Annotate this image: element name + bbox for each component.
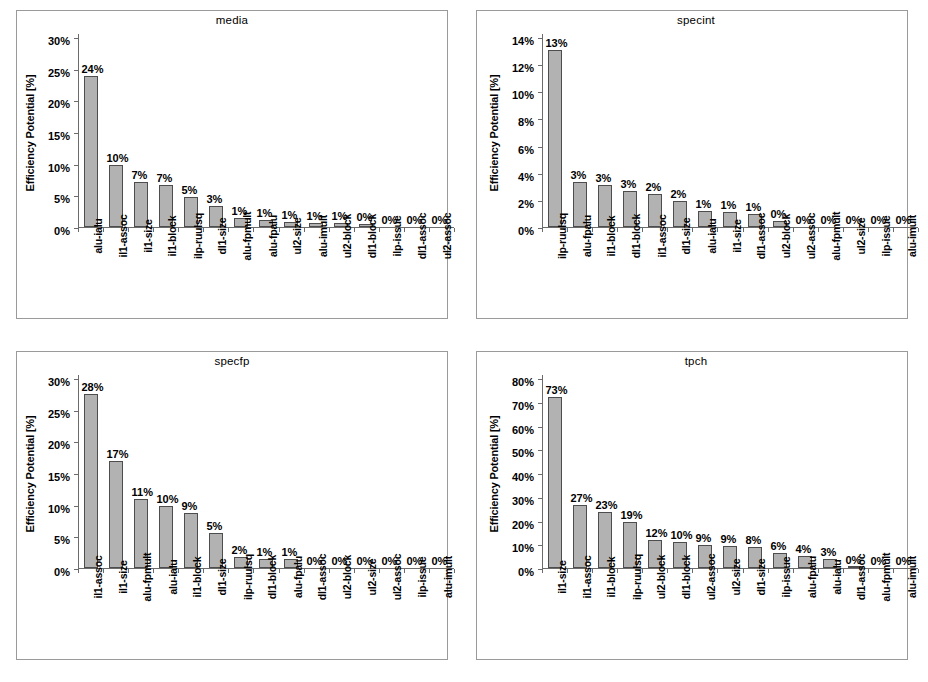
chart-panel-media: media Efficiency Potential [%] 0%5%10%15… [0, 0, 464, 341]
bar-slot: 1% [279, 38, 304, 227]
bar-slot: 0% [429, 38, 454, 227]
y-tick-mark [538, 403, 542, 404]
bar-slot: 8% [743, 379, 768, 568]
x-axis-tick-labels: ilp-ruulsqalu-fpaluil1-blockdl1-blockil1… [543, 232, 918, 318]
y-tick-mark [74, 165, 78, 166]
bar-slot: 0% [429, 379, 454, 568]
y-tick-label: 8% [518, 117, 534, 123]
x-tick-label-text: alu-fpalu [292, 556, 304, 598]
x-tick-mark [454, 569, 455, 573]
bar-slot: 1% [329, 38, 354, 227]
y-tick-mark [538, 38, 542, 39]
y-tick-mark [538, 498, 542, 499]
x-tick-label-text: alu-fpalu [806, 556, 818, 598]
bar [84, 394, 99, 568]
bar-slot: 24% [79, 38, 104, 227]
x-tick-label-text: alu-ialu [831, 559, 843, 594]
x-tick-label-text: ul2-assoc [442, 213, 454, 260]
bar-slot: 1% [254, 379, 279, 568]
y-tick-mark [538, 119, 542, 120]
bar-slot: 9% [718, 379, 743, 568]
x-tick-mark [454, 228, 455, 232]
bar-value-label: 9% [182, 501, 198, 512]
x-tick-label-text: dl1-size [217, 218, 229, 255]
bar-value-label: 73% [546, 385, 568, 396]
plot-area: Efficiency Potential [%] 0%5%10%15%20%25… [0, 0, 464, 341]
y-tick-label: 5% [54, 194, 70, 200]
bar-slot: 3% [204, 38, 229, 227]
bar-value-label: 9% [696, 533, 712, 544]
bar-slot: 1% [743, 38, 768, 227]
x-axis-tick-labels: il1-sizeil1-associl1-blockilp-ruulsqul2-… [543, 573, 918, 659]
x-tick-label-text: il1-block [606, 216, 618, 257]
bar-value-label: 5% [182, 185, 198, 196]
y-tick-mark [74, 474, 78, 475]
x-tick-label-text: alu-fpalu [581, 215, 593, 257]
bar-value-label: 10% [671, 530, 693, 541]
bar-slot: 0% [329, 379, 354, 568]
x-tick-label-text: ilp-issue [781, 557, 793, 598]
chart-panel-specfp: specfp Efficiency Potential [%] 0%5%10%1… [0, 341, 464, 682]
x-tick-label-text: il1-size [142, 219, 154, 252]
x-tick-label-text: dl1-assoc [856, 554, 868, 601]
x-tick-label-text: il1-size [117, 560, 129, 593]
y-tick-label: 30% [48, 376, 70, 382]
bar-value-label: 10% [107, 153, 129, 164]
bar-series: 24%10%7%7%5%3%1%1%1%1%1%0%0%0%0% [79, 38, 454, 227]
bar-slot: 0% [379, 379, 404, 568]
x-tick-label-text: dl1-size [217, 559, 229, 596]
x-tick-label-text: ilp-issue [881, 216, 893, 257]
x-tick-label-text: ul2-assoc [392, 554, 404, 601]
y-tick-mark [74, 133, 78, 134]
x-tick-label-text: dl1-block [631, 214, 643, 258]
bar-slot: 0% [379, 38, 404, 227]
y-tick-mark [538, 379, 542, 380]
x-tick-mark [918, 569, 919, 573]
x-tick-label-text: ilp-ruulsq [631, 554, 643, 600]
chart-grid: media Efficiency Potential [%] 0%5%10%15… [0, 0, 928, 682]
y-tick-mark [74, 70, 78, 71]
bar-slot: 73% [543, 379, 568, 568]
bar-value-label: 11% [132, 487, 153, 498]
x-tick-label-text: dl1-assoc [417, 213, 429, 260]
y-tick-label: 4% [518, 171, 534, 177]
x-tick-label-text: alu-ialu [92, 218, 104, 253]
y-tick-mark [538, 65, 542, 66]
bar-value-label: 3% [821, 547, 837, 558]
x-tick-label-text: ul2-size [292, 218, 304, 255]
axes: 24%10%7%7%5%3%1%1%1%1%1%0%0%0%0% [78, 38, 454, 228]
bar-value-label: 3% [207, 194, 223, 205]
axes: 28%17%11%10%9%5%2%1%1%0%0%0%0%0%0% [78, 379, 454, 569]
bar-slot: 1% [254, 38, 279, 227]
y-tick-label: 20% [48, 99, 70, 105]
bar-slot: 10% [154, 379, 179, 568]
x-tick-label-text: dl1-block [681, 555, 693, 599]
bar-value-label: 9% [721, 534, 737, 545]
bar-slot: 0% [818, 38, 843, 227]
bar-slot: 0% [868, 379, 893, 568]
bar-value-label: 3% [596, 173, 612, 184]
bar [84, 76, 99, 227]
x-tick-label-text: ilp-issue [392, 216, 404, 257]
bar-value-label: 17% [107, 449, 129, 460]
bar-value-label: 19% [621, 510, 643, 521]
y-tick-label: 20% [48, 440, 70, 446]
bar-value-label: 28% [82, 382, 104, 393]
bar-slot: 0% [843, 379, 868, 568]
bar-slot: 0% [843, 38, 868, 227]
bar-slot: 3% [568, 38, 593, 227]
bar-value-label: 1% [746, 202, 762, 213]
x-tick-mark [918, 228, 919, 232]
bar-value-label: 8% [746, 535, 762, 546]
bar-slot: 4% [793, 379, 818, 568]
x-tick-label-text: il1-assoc [117, 214, 129, 257]
bar [548, 50, 563, 227]
y-tick-label: 10% [512, 543, 534, 549]
axes: 13%3%3%3%2%2%1%1%1%0%0%0%0%0%0% [542, 38, 918, 228]
x-tick-label-text: dl1-size [681, 218, 693, 255]
y-tick-mark [74, 537, 78, 538]
bar-slot: 3% [818, 379, 843, 568]
bar-slot: 0% [404, 38, 429, 227]
x-tick-label-text: ul2-assoc [706, 554, 718, 601]
bar-slot: 1% [279, 379, 304, 568]
